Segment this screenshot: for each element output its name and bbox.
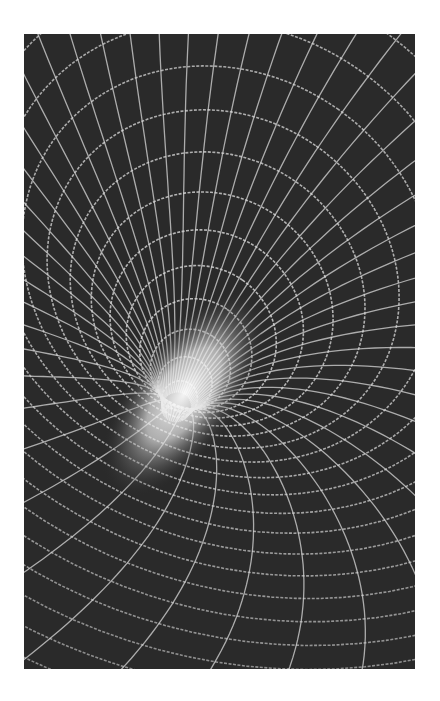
- funnel-image: [24, 34, 415, 669]
- funnel-wireframe: [24, 34, 415, 669]
